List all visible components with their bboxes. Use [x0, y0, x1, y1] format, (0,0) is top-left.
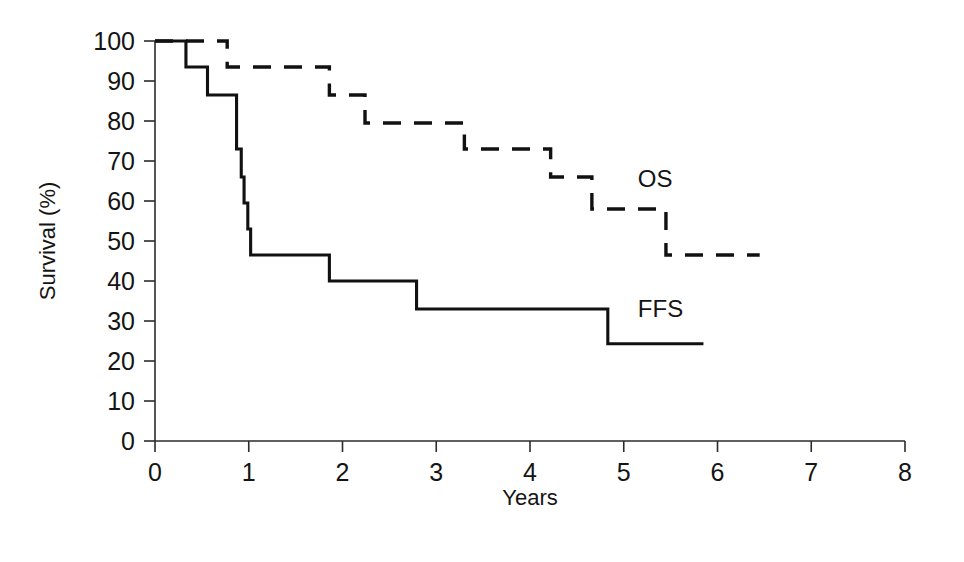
x-axis-tick-labels: 012345678	[148, 458, 912, 486]
kaplan-meier-survival-figure: 0102030405060708090100 012345678 OS FFS …	[0, 0, 964, 562]
x-tick-label: 1	[242, 458, 256, 486]
x-tick-label: 7	[804, 458, 818, 486]
x-axis-title: Years	[502, 485, 557, 510]
y-axis-tick-labels: 0102030405060708090100	[93, 27, 135, 455]
ffs-survival-curve	[155, 41, 703, 344]
y-tick-label: 70	[107, 147, 135, 175]
y-axis-title: Survival (%)	[35, 182, 60, 301]
x-axis-group: 012345678	[148, 441, 912, 486]
y-tick-label: 20	[107, 347, 135, 375]
ffs-series-label: FFS	[638, 295, 683, 322]
survival-plot-svg: 0102030405060708090100 012345678 OS FFS …	[0, 0, 964, 562]
y-tick-label: 100	[93, 27, 135, 55]
y-tick-label: 30	[107, 307, 135, 335]
y-tick-label: 90	[107, 67, 135, 95]
x-tick-label: 4	[523, 458, 537, 486]
x-tick-label: 5	[617, 458, 631, 486]
y-tick-label: 0	[121, 427, 135, 455]
x-axis-ticks	[155, 441, 905, 452]
y-tick-label: 40	[107, 267, 135, 295]
y-axis-group: 0102030405060708090100	[93, 27, 155, 455]
x-tick-label: 8	[898, 458, 912, 486]
y-tick-label: 10	[107, 387, 135, 415]
y-axis-ticks	[144, 41, 155, 441]
x-tick-label: 2	[336, 458, 350, 486]
os-series-label: OS	[638, 165, 673, 192]
x-tick-label: 6	[711, 458, 725, 486]
x-tick-label: 3	[429, 458, 443, 486]
y-tick-label: 60	[107, 187, 135, 215]
y-tick-label: 50	[107, 227, 135, 255]
y-tick-label: 80	[107, 107, 135, 135]
x-tick-label: 0	[148, 458, 162, 486]
os-survival-curve	[155, 41, 760, 255]
